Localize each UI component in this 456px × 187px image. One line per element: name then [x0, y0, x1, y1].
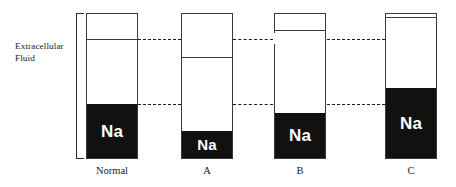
- bar-normal-fluid-level-line: [86, 39, 138, 40]
- bar-a: Na: [181, 13, 233, 159]
- extracellular-fluid-bracket: [76, 13, 84, 159]
- bar-b-top-edge: [274, 13, 326, 14]
- bar-normal-top-edge: [86, 13, 138, 14]
- bar-c-fluid-level-line: [385, 17, 437, 18]
- bar-a-na-block: Na: [182, 131, 233, 158]
- bar-normal: Na: [86, 13, 138, 159]
- bar-b: Na: [274, 13, 326, 159]
- bar-a-fluid-level-line: [181, 57, 233, 58]
- dashed-reference-line-ecf-normal-to-a: [138, 39, 181, 40]
- bar-c-top-edge: [385, 13, 437, 14]
- bar-a-category-label: A: [171, 165, 243, 176]
- dashed-reference-line-ecf-b-to-c: [327, 39, 385, 40]
- bar-normal-na-block: Na: [87, 104, 138, 158]
- bar-c-na-block: Na: [386, 88, 437, 158]
- bar-c-na-label: Na: [400, 115, 422, 132]
- dashed-reference-line-na-b-to-c: [327, 104, 385, 105]
- bar-c: Na: [385, 13, 437, 159]
- bar-normal-category-label: Normal: [76, 165, 148, 176]
- bar-b-na-block: Na: [275, 113, 326, 158]
- bar-a-na-label: Na: [197, 137, 217, 152]
- bar-b-na-label: Na: [289, 127, 311, 144]
- bar-b-fluid-level-line: [274, 30, 326, 31]
- bar-b-category-label: B: [264, 165, 336, 176]
- dashed-reference-line-na-a-to-b: [233, 104, 273, 105]
- extracellular-fluid-label: Extracellular Fluid: [15, 41, 75, 64]
- dashed-reference-line-na-normal-to-a: [138, 104, 181, 105]
- bar-c-category-label: C: [375, 165, 447, 176]
- dashed-reference-line-ecf-a-to-b: [233, 39, 273, 40]
- bar-a-top-edge: [181, 13, 233, 14]
- fluid-compartment-diagram: Extracellular Fluid Na Normal Na A: [0, 0, 456, 187]
- bar-normal-na-label: Na: [101, 123, 123, 140]
